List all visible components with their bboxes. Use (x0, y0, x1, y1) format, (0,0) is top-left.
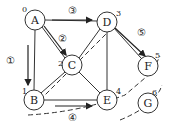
step-label-4: ④ (68, 112, 77, 123)
graph-diagram: A B C D E F G 0 1 2 3 4 5 6 ① ② ③ ④ ⑤ (0, 0, 175, 132)
order-b: 1 (22, 87, 27, 96)
order-d: 3 (116, 9, 121, 18)
step-label-3: ③ (68, 5, 77, 16)
nodes (24, 10, 158, 113)
node-label-c: C (68, 59, 76, 72)
edge-a-b (34, 30, 35, 90)
traversal-arrows (28, 20, 145, 106)
step-label-2: ② (58, 33, 67, 44)
order-c: 2 (58, 59, 63, 68)
node-label-g: G (144, 97, 153, 110)
node-label-d: D (103, 16, 112, 29)
node-label-b: B (30, 94, 38, 107)
step-label-5: ⑤ (137, 27, 146, 38)
order-g: 6 (152, 88, 157, 97)
graph-canvas: A B C D E F G 0 1 2 3 4 5 6 ① ② ③ ④ ⑤ (0, 0, 175, 132)
order-f: 5 (155, 51, 160, 60)
node-label-e: E (103, 94, 111, 107)
node-label-f: F (144, 60, 152, 73)
order-e: 4 (116, 87, 121, 96)
step-label-1: ① (6, 55, 15, 66)
node-label-a: A (30, 14, 40, 27)
edge-c-e (79, 72, 100, 93)
order-a: 0 (22, 5, 27, 14)
edge-b-c (41, 72, 65, 93)
node-labels: A B C D E F G (30, 14, 152, 110)
